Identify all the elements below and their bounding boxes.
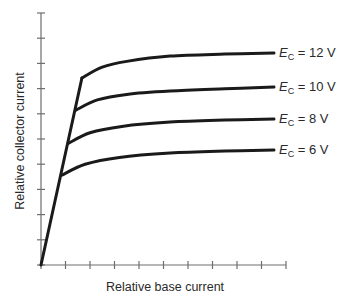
curves [41,53,274,265]
label-symbol: E [279,111,288,126]
series-label: EC = 12 V [279,46,336,62]
label-symbol: E [279,45,288,60]
label-value: = 12 V [294,45,336,60]
curve-series-0 [82,53,274,78]
label-symbol: E [279,79,288,94]
curve-series-1 [76,87,274,110]
curve-series-2 [69,119,274,143]
curve-series-3 [62,150,274,175]
label-value: = 10 V [294,79,336,94]
series-label: EC = 10 V [279,80,336,96]
y-axis-label: Relative collector current [13,72,27,210]
label-value: = 6 V [294,142,328,157]
load-line [41,78,82,265]
label-value: = 8 V [294,111,328,126]
x-axis-label: Relative base current [0,280,330,294]
series-label: EC = 8 V [279,112,329,128]
series-label: EC = 6 V [279,143,329,159]
label-symbol: E [279,142,288,157]
